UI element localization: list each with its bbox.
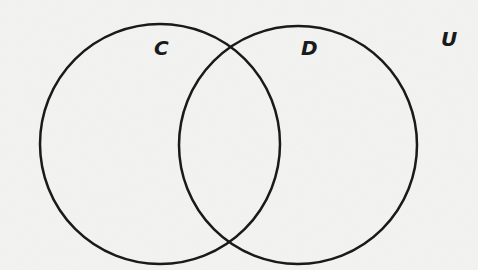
set-d-label: D	[301, 38, 318, 58]
venn-diagram-svg	[0, 0, 478, 270]
universal-set-label: U	[441, 29, 457, 49]
venn-diagram: C D U	[0, 0, 478, 270]
set-c-label: C	[154, 38, 169, 58]
